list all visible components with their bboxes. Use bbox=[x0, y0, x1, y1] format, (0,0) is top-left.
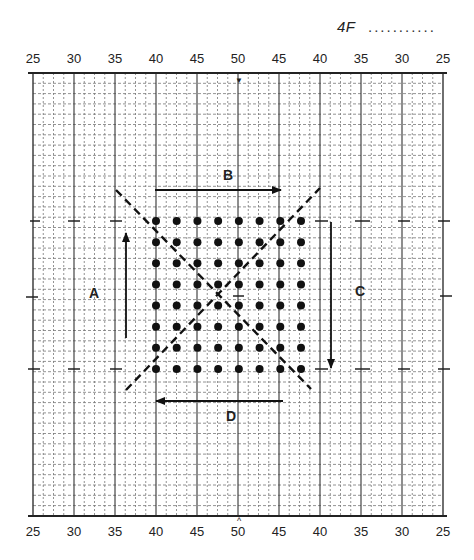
top-axis-tick-label: 30 bbox=[395, 51, 409, 66]
top-axis-tick-label: 35 bbox=[108, 51, 122, 66]
top-axis-tick-label: 45 bbox=[272, 51, 286, 66]
grid-dot bbox=[152, 280, 160, 288]
dot-matrix bbox=[152, 217, 305, 373]
top-axis-tick-label: 30 bbox=[67, 51, 81, 66]
grid-dot bbox=[235, 238, 243, 246]
label-c: C bbox=[355, 283, 365, 299]
grid-dot bbox=[173, 217, 181, 225]
grid-dot bbox=[256, 344, 264, 352]
grid-dot bbox=[193, 259, 201, 267]
grid-dot bbox=[193, 365, 201, 373]
grid-dot bbox=[193, 280, 201, 288]
grid-dot bbox=[152, 302, 160, 310]
grid-dot bbox=[276, 217, 284, 225]
grid-dot bbox=[235, 365, 243, 373]
top-axis-tick-label: 25 bbox=[26, 51, 40, 66]
grid-dot bbox=[193, 302, 201, 310]
label-b: B bbox=[223, 167, 233, 183]
top-axis-tick-label: 35 bbox=[354, 51, 368, 66]
grid-dot bbox=[297, 302, 305, 310]
grid-dot bbox=[214, 280, 222, 288]
grid-dot bbox=[193, 238, 201, 246]
grid-dot bbox=[276, 302, 284, 310]
bottom-axis-tick-label: 30 bbox=[395, 524, 409, 539]
grid-dot bbox=[256, 280, 264, 288]
bottom-axis-tick-label: 50 bbox=[231, 524, 245, 539]
top-axis-tick-label: 45 bbox=[190, 51, 204, 66]
grid-dot bbox=[297, 365, 305, 373]
bottom-axis-tick-label: 40 bbox=[313, 524, 327, 539]
grid-dot bbox=[297, 259, 305, 267]
grid-dot bbox=[173, 280, 181, 288]
top-axis-tick-label: 40 bbox=[313, 51, 327, 66]
grid-dot bbox=[214, 217, 222, 225]
grid-dot bbox=[214, 259, 222, 267]
top-center-marker-icon: ▼ bbox=[235, 76, 243, 85]
grid-dot bbox=[256, 238, 264, 246]
grid-dot bbox=[214, 302, 222, 310]
grid-dot bbox=[152, 344, 160, 352]
grid-dot bbox=[256, 365, 264, 373]
grid-diagram: 2530354045504540353025 25303540455045403… bbox=[0, 0, 474, 560]
grid-dot bbox=[214, 344, 222, 352]
grid-dot bbox=[193, 217, 201, 225]
grid-dot bbox=[235, 302, 243, 310]
grid-dot bbox=[276, 238, 284, 246]
grid-dot bbox=[235, 259, 243, 267]
grid-dot bbox=[276, 280, 284, 288]
grid-dot bbox=[152, 365, 160, 373]
grid-dot bbox=[235, 280, 243, 288]
bottom-axis-tick-label: 30 bbox=[67, 524, 81, 539]
bottom-axis-tick-label: 45 bbox=[272, 524, 286, 539]
grid-dot bbox=[152, 238, 160, 246]
bottom-axis-tick-label: 35 bbox=[108, 524, 122, 539]
grid-dot bbox=[193, 344, 201, 352]
diagram-stage: 4F ........... 25303540455 bbox=[0, 0, 474, 560]
grid-dot bbox=[193, 323, 201, 331]
bottom-axis-tick-label: 45 bbox=[190, 524, 204, 539]
grid-dot bbox=[152, 217, 160, 225]
grid-dot bbox=[276, 344, 284, 352]
top-axis-tick-label: 40 bbox=[149, 51, 163, 66]
grid-dot bbox=[276, 323, 284, 331]
grid-dot bbox=[173, 302, 181, 310]
label-a: A bbox=[89, 285, 99, 301]
grid-dot bbox=[297, 280, 305, 288]
page-reference: 4F bbox=[337, 18, 356, 35]
top-axis-labels: 2530354045504540353025 bbox=[26, 51, 450, 66]
grid-dot bbox=[173, 344, 181, 352]
grid-dot bbox=[152, 323, 160, 331]
grid-dot bbox=[297, 344, 305, 352]
grid-dot bbox=[276, 259, 284, 267]
grid-dot bbox=[256, 259, 264, 267]
grid-dot bbox=[256, 323, 264, 331]
grid-dot bbox=[256, 302, 264, 310]
grid-dot bbox=[235, 323, 243, 331]
grid-dot bbox=[276, 365, 284, 373]
grid-dot bbox=[256, 217, 264, 225]
grid-dot bbox=[235, 217, 243, 225]
grid-dot bbox=[152, 259, 160, 267]
grid-dot bbox=[297, 323, 305, 331]
grid-dot bbox=[214, 238, 222, 246]
top-axis-tick-label: 25 bbox=[436, 51, 450, 66]
grid-dot bbox=[214, 323, 222, 331]
grid-dot bbox=[297, 238, 305, 246]
grid-dot bbox=[297, 217, 305, 225]
bottom-axis-labels: 2530354045504540353025 bbox=[26, 524, 450, 539]
bottom-axis-tick-label: 35 bbox=[354, 524, 368, 539]
bottom-axis-tick-label: 25 bbox=[26, 524, 40, 539]
grid-dot bbox=[235, 344, 243, 352]
bottom-axis-tick-label: 25 bbox=[436, 524, 450, 539]
bottom-axis-tick-label: 40 bbox=[149, 524, 163, 539]
grid-dot bbox=[173, 365, 181, 373]
grid-dot bbox=[173, 238, 181, 246]
label-d: D bbox=[226, 408, 236, 424]
page-reference-dots: ........... bbox=[368, 18, 436, 35]
grid-dot bbox=[214, 365, 222, 373]
grid-dot bbox=[173, 323, 181, 331]
grid-dot bbox=[173, 259, 181, 267]
top-axis-tick-label: 50 bbox=[231, 51, 245, 66]
